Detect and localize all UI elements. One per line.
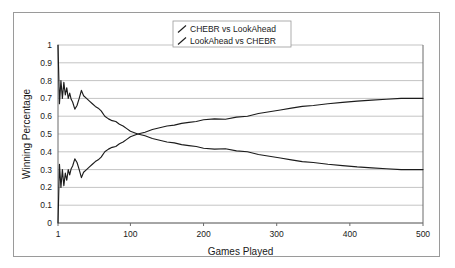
y-tick-label: 0.6 (40, 111, 52, 121)
x-tick-label: 200 (196, 229, 210, 239)
legend-label: LookAhead vs CHEBR (190, 36, 276, 46)
x-tick-label: 300 (270, 229, 284, 239)
y-tick-label: 0.4 (40, 147, 52, 157)
y-tick-label: 0.2 (40, 182, 52, 192)
x-tick-label: 400 (343, 229, 357, 239)
series-line (58, 98, 423, 223)
x-tick-label: 500 (416, 229, 430, 239)
chart-plot-area: 00.10.20.30.40.50.60.70.80.91 1100200300… (14, 13, 441, 258)
y-tick-label: 0.8 (40, 76, 52, 86)
y-tick-label: 0.7 (40, 93, 52, 103)
x-axis-title: Games Played (208, 246, 274, 257)
y-tick-label: 0.5 (40, 129, 52, 139)
y-tick-label: 0.9 (40, 58, 52, 68)
y-tick-label: 0.1 (40, 200, 52, 210)
y-tick-labels: 00.10.20.30.40.50.60.70.80.91 (40, 40, 52, 228)
y-tick-label: 0.3 (40, 165, 52, 175)
x-tick-labels: 1100200300400500 (56, 223, 431, 239)
y-tick-label: 0 (47, 218, 52, 228)
legend-label: CHEBR vs LookAhead (190, 24, 276, 34)
y-tick-label: 1 (47, 40, 52, 50)
chart-figure: 00.10.20.30.40.50.60.70.80.91 1100200300… (13, 12, 440, 257)
series-line (58, 45, 423, 170)
y-axis-title: Winning Percentage (21, 89, 32, 179)
x-tick-label: 1 (56, 229, 61, 239)
gridlines-group (58, 45, 423, 223)
chart-legend: CHEBR vs LookAheadLookAhead vs CHEBR (173, 21, 291, 47)
x-tick-label: 100 (123, 229, 137, 239)
